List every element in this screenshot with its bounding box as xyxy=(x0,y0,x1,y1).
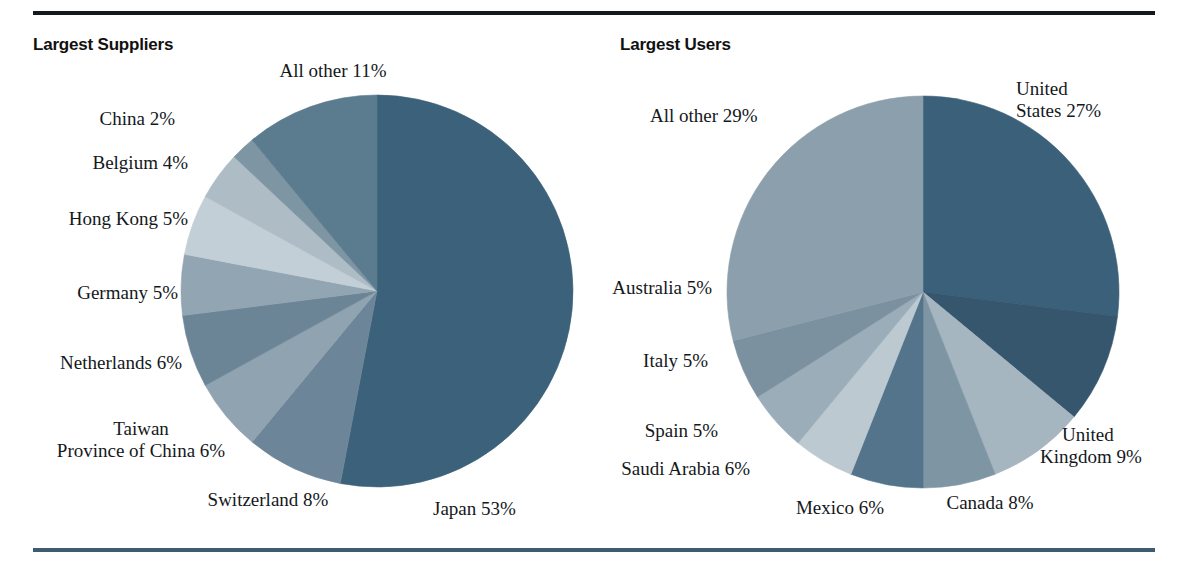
pie-label-spain: Spain 5% xyxy=(600,420,718,442)
pie-label-united-kingdom-line1: United xyxy=(1062,424,1186,446)
pie-label-all-other-suppliers: All other 11% xyxy=(198,60,468,82)
top-rule xyxy=(33,11,1155,15)
pie-label-australia: Australia 5% xyxy=(600,277,712,299)
pie-label-china: China 2% xyxy=(20,108,175,130)
suppliers-slice-belgium xyxy=(205,157,377,291)
users-slice-saudi-arabia xyxy=(851,292,923,488)
suppliers-slice-all-other xyxy=(252,95,377,291)
suppliers-slice-netherlands xyxy=(183,291,377,385)
pie-label-germany: Germany 5% xyxy=(12,282,178,304)
pie-label-canada: Canada 8% xyxy=(920,492,1060,514)
pie-label-united-states-line1: United xyxy=(1016,78,1186,100)
users-slice-all-other xyxy=(727,96,923,341)
pie-label-belgium: Belgium 4% xyxy=(20,152,188,174)
users-slice-australia xyxy=(733,292,923,397)
pie-label-japan: Japan 53% xyxy=(433,498,613,520)
pie-label-united-kingdom-line2: Kingdom 9% xyxy=(1040,446,1186,468)
suppliers-slice-japan xyxy=(340,95,573,487)
suppliers-slice-hong-kong xyxy=(184,197,377,291)
pie-label-italy: Italy 5% xyxy=(600,350,708,372)
users-slice-italy xyxy=(758,292,923,443)
pie-label-taiwan-line2: Province of China 6% xyxy=(30,440,252,462)
suppliers-slice-germany xyxy=(181,254,377,315)
pie-label-united-states-line2: States 27% xyxy=(1016,100,1186,122)
suppliers-slice-switzerland xyxy=(252,291,377,484)
pie-label-taiwan-line1: Taiwan xyxy=(30,418,252,440)
pie-label-mexico: Mexico 6% xyxy=(770,497,910,519)
bottom-rule xyxy=(33,548,1155,552)
users-slice-spain xyxy=(798,292,923,474)
page-title-users: Largest Users xyxy=(620,35,731,55)
pie-chart-largest-users xyxy=(727,96,1119,488)
users-slice-united-kingdom xyxy=(923,292,1117,417)
suppliers-slice-china xyxy=(234,140,377,291)
pie-label-hong-kong: Hong Kong 5% xyxy=(12,208,188,230)
users-slice-mexico xyxy=(923,292,995,488)
pie-label-netherlands: Netherlands 6% xyxy=(8,352,182,374)
users-slice-united-states xyxy=(923,96,1119,317)
pie-label-all-other-users: All other 29% xyxy=(650,105,850,127)
pie-label-saudi-arabia: Saudi Arabia 6% xyxy=(590,458,750,480)
page-title-suppliers: Largest Suppliers xyxy=(33,35,173,55)
pie-label-switzerland: Switzerland 8% xyxy=(168,489,368,511)
